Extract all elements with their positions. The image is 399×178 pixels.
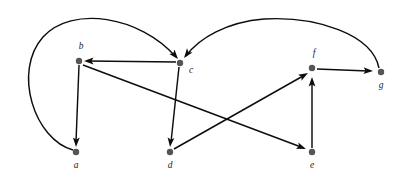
edge-c-to-b — [88, 61, 176, 62]
edge-b-to-e — [83, 65, 301, 147]
edge-d-to-f — [174, 76, 303, 149]
node-c[interactable] — [177, 60, 183, 66]
edge-a-to-c — [29, 18, 176, 150]
arrowhead-d-to-f — [298, 70, 310, 81]
nodes-layer — [73, 58, 384, 155]
arrowheads-layer — [73, 48, 374, 152]
node-d[interactable] — [167, 149, 173, 155]
node-label-c: c — [189, 65, 194, 75]
edge-b-to-a — [76, 65, 79, 142]
arrowhead-c-to-d — [167, 137, 175, 147]
node-b[interactable] — [76, 58, 82, 64]
node-label-a: a — [74, 160, 79, 170]
node-g[interactable] — [378, 69, 384, 75]
node-label-f: f — [313, 48, 317, 58]
graph-figure: abcdefg — [0, 0, 399, 178]
arrowhead-b-to-e — [296, 142, 307, 152]
node-e[interactable] — [309, 149, 315, 155]
graph-canvas: abcdefg — [0, 0, 399, 178]
edge-f-to-g — [317, 69, 368, 71]
node-f[interactable] — [309, 65, 315, 71]
node-labels-layer: abcdefg — [74, 41, 384, 170]
edges-layer — [29, 18, 379, 150]
node-a[interactable] — [73, 149, 79, 155]
node-label-b: b — [79, 41, 84, 51]
node-label-e: e — [310, 160, 314, 170]
edge-c-to-d — [171, 67, 179, 142]
edge-g-to-c — [186, 19, 379, 68]
node-label-g: g — [379, 80, 384, 90]
node-label-d: d — [168, 160, 173, 170]
